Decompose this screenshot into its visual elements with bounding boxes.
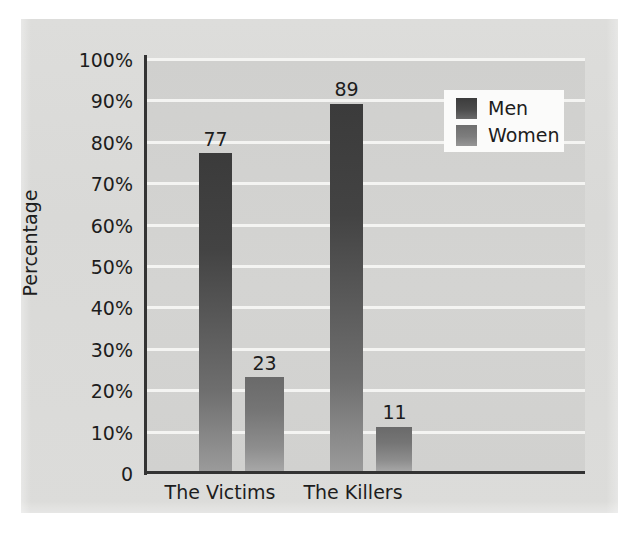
gridline	[146, 58, 585, 61]
legend-label-men: Men	[488, 99, 528, 118]
bar-value-men-the-killers: 89	[321, 80, 372, 99]
legend-label-women: Women	[488, 126, 560, 145]
x-tick-label-the-killers: The Killers	[293, 481, 413, 503]
y-axis-ticks: 100% 90% 80% 70% 60% 50% 40% 30% 20% 10%…	[55, 0, 133, 535]
y-axis-title: Percentage	[19, 173, 41, 313]
bar-value-women-the-victims: 23	[239, 354, 290, 373]
legend-item-women[interactable]: Women	[456, 123, 560, 147]
y-tick-label: 10%	[55, 424, 133, 443]
y-tick-label: 0	[55, 465, 133, 484]
y-tick-label: 90%	[55, 92, 133, 111]
bar-value-men-the-victims: 77	[190, 130, 241, 149]
y-tick-label: 60%	[55, 217, 133, 236]
bar-value-women-the-killers: 11	[369, 403, 420, 422]
legend-swatch-men-icon	[456, 98, 477, 119]
legend: Men Women	[444, 90, 564, 152]
y-tick-label: 30%	[55, 341, 133, 360]
figure-canvas: 77 23 89 11 100% 90% 80% 70% 60% 50% 40%…	[0, 0, 640, 535]
bar-men-the-killers[interactable]	[330, 104, 363, 473]
legend-item-men[interactable]: Men	[456, 96, 528, 120]
bar-women-the-killers[interactable]	[376, 427, 412, 473]
y-axis-line	[144, 55, 147, 475]
y-tick-label: 50%	[55, 258, 133, 277]
bar-men-the-victims[interactable]	[199, 153, 232, 472]
x-tick-label-the-victims: The Victims	[160, 481, 280, 503]
legend-swatch-women-icon	[456, 125, 477, 146]
y-tick-label: 40%	[55, 299, 133, 318]
y-tick-label: 20%	[55, 382, 133, 401]
y-tick-label: 100%	[55, 51, 133, 70]
x-axis-line	[144, 471, 585, 474]
y-tick-label: 80%	[55, 134, 133, 153]
y-tick-label: 70%	[55, 175, 133, 194]
bar-women-the-victims[interactable]	[245, 377, 284, 472]
